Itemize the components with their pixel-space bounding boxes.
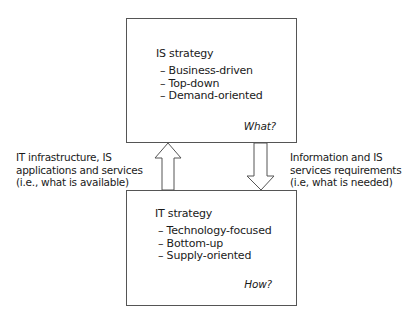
down-arrow-icon: [247, 143, 274, 190]
label-line: applications and services: [16, 164, 143, 177]
up-arrow-icon: [155, 143, 181, 190]
label-line: (i.e., what is available): [16, 176, 143, 189]
right-arrow-label: Information and IS services requirements…: [290, 151, 401, 189]
label-line: Information and IS: [290, 151, 401, 164]
label-line: IT infrastructure, IS: [16, 151, 143, 164]
label-line: (i.e, what is needed): [290, 176, 401, 189]
left-arrow-label: IT infrastructure, IS applications and s…: [16, 151, 143, 189]
label-line: services requirements: [290, 164, 401, 177]
